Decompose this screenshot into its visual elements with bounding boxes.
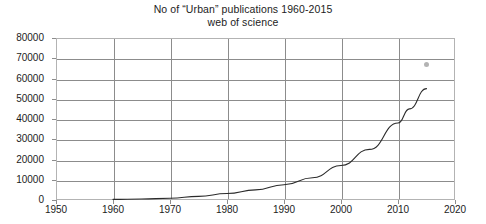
y-axis-tick-mark — [52, 139, 56, 140]
y-axis-tick-mark — [52, 99, 56, 100]
x-axis-tick-mark — [341, 200, 342, 204]
x-axis-tick-mark — [227, 200, 228, 204]
y-axis-tick-mark — [52, 79, 56, 80]
scatter-point-marker — [424, 62, 429, 67]
x-axis-tick-mark — [113, 200, 114, 204]
series-layer — [0, 0, 486, 224]
x-axis-tick-mark — [170, 200, 171, 204]
x-axis-tick-mark — [56, 200, 57, 204]
x-axis-tick-mark — [284, 200, 285, 204]
y-axis-tick-mark — [52, 180, 56, 181]
y-axis-tick-mark — [52, 119, 56, 120]
y-axis-tick-mark — [52, 160, 56, 161]
y-axis-tick-mark — [52, 38, 56, 39]
line-series-urban-publications — [113, 89, 427, 200]
chart-container: No of “Urban” publications 1960-2015 web… — [0, 0, 486, 224]
x-axis-tick-mark — [455, 200, 456, 204]
y-axis-tick-mark — [52, 58, 56, 59]
x-axis-tick-mark — [398, 200, 399, 204]
